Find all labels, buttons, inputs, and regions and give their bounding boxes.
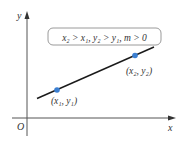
x-axis [12, 116, 176, 121]
x-axis-arrow-icon [168, 116, 176, 121]
line-slope-diagram: y O x x₂ > x₁, y₂ > y₁, m > 0 (x₁, y₁) (… [0, 0, 187, 142]
y-axis [25, 11, 30, 136]
y-axis-arrow-icon [25, 11, 30, 19]
condition-box: x₂ > x₁, y₂ > y₁, m > 0 [48, 28, 161, 45]
point-2 [132, 53, 138, 59]
x-axis-label: x [167, 122, 173, 133]
condition-text: x₂ > x₁, y₂ > y₁, m > 0 [61, 33, 147, 43]
y-axis-label: y [16, 10, 22, 21]
point-1 [54, 87, 60, 93]
point-2-label: (x₂, y₂) [126, 66, 152, 77]
origin-label: O [17, 121, 24, 132]
point-1-label: (x₁, y₁) [51, 96, 77, 107]
